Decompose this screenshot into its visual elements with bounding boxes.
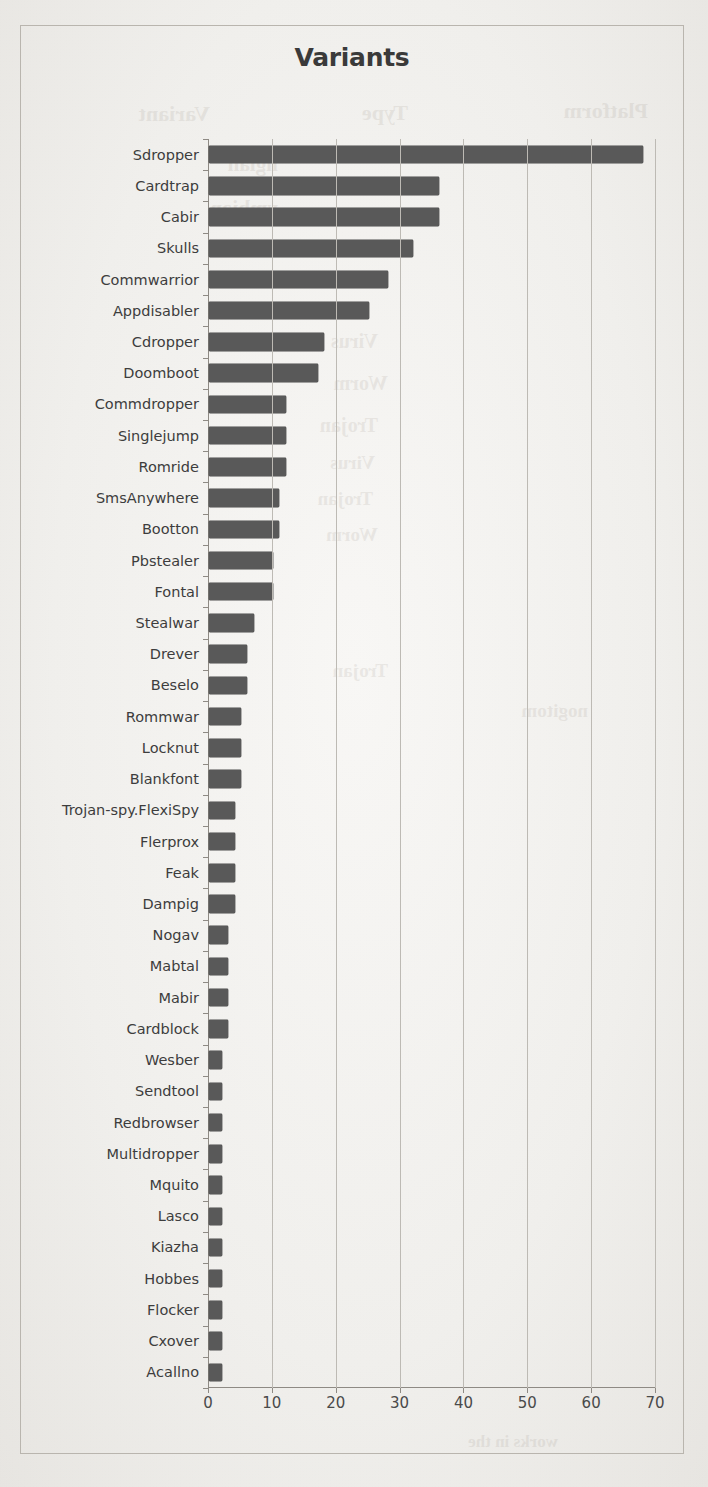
y-axis-tick [203,170,208,171]
bar [209,1301,222,1318]
bar-row: Doomboot [208,358,655,389]
category-label: Wesber [145,1053,199,1068]
bar-row: Dampig [208,888,655,919]
y-axis-tick [203,951,208,952]
bar [209,1176,222,1193]
bar-row: Cardblock [208,1013,655,1044]
bar-row: Cabir [208,201,655,232]
x-axis-tick [272,1388,273,1393]
category-label: Blankfont [130,772,199,787]
category-label: Trojan-spy.FlexiSpy [62,803,199,818]
bar-row: Sdropper [208,139,655,170]
bar [209,427,286,444]
y-axis-tick [203,920,208,921]
bar-row: Trojan-spy.FlexiSpy [208,795,655,826]
x-axis-tick-label: 50 [518,1394,537,1412]
bar-row: Mquito [208,1169,655,1200]
bar-row: Beselo [208,670,655,701]
bar-row: Mabir [208,982,655,1013]
bar [209,895,235,912]
bar-row: Blankfont [208,764,655,795]
y-axis-tick [203,1201,208,1202]
bar [209,146,643,163]
category-label: Sdropper [133,148,199,163]
bar-row: Pbstealer [208,545,655,576]
y-axis-tick [203,233,208,234]
bar-row: Cdropper [208,326,655,357]
x-axis-tick-label: 40 [454,1394,473,1412]
y-axis-tick [203,1326,208,1327]
x-axis-tick-label: 0 [203,1394,213,1412]
category-label: Hobbes [144,1272,199,1287]
x-axis-tick-labels: 010203040506070 [208,1394,655,1424]
y-axis-tick [203,1388,208,1389]
bar-row: Feak [208,857,655,888]
x-axis-tick [591,1388,592,1393]
bar [209,1083,222,1100]
category-label: Lasco [158,1209,199,1224]
category-label: Nogav [153,928,199,943]
y-axis-tick [203,482,208,483]
bar [209,614,254,631]
category-label: Doomboot [123,366,199,381]
bar [209,1208,222,1225]
y-axis-tick [203,139,208,140]
y-axis-tick [203,1045,208,1046]
x-axis-tick [655,1388,656,1393]
category-label: Flocker [147,1303,199,1318]
bar [209,1020,228,1037]
category-label: SmsAnywhere [96,491,199,506]
bar-row: Skulls [208,233,655,264]
bar-row: Nogav [208,920,655,951]
bar [209,958,228,975]
bar [209,521,279,538]
category-label: Feak [165,866,199,881]
x-axis-tick-label: 30 [390,1394,409,1412]
category-label: Stealwar [136,616,199,631]
bar [209,1364,222,1381]
bar [209,1114,222,1131]
bar-row: Rommwar [208,701,655,732]
y-axis-tick [203,607,208,608]
bar-row: Commwarrior [208,264,655,295]
y-axis-tick [203,1107,208,1108]
category-label: Acallno [146,1365,199,1380]
bar [209,1051,222,1068]
category-label: Commwarrior [100,273,199,288]
bar [209,240,413,257]
y-axis-tick [203,826,208,827]
bar [209,677,247,694]
y-axis-tick [203,1076,208,1077]
category-label: Romride [138,460,199,475]
bar-row: Wesber [208,1045,655,1076]
bar-row: Lasco [208,1201,655,1232]
category-label: Cardblock [127,1022,199,1037]
x-axis-tick [336,1388,337,1393]
x-axis-tick-label: 20 [326,1394,345,1412]
bar-row: Flerprox [208,826,655,857]
gridline [463,139,464,1388]
category-label: Pbstealer [131,554,199,569]
category-label: Kiazha [151,1240,199,1255]
bar [209,396,286,413]
y-axis-tick [203,1357,208,1358]
x-axis-tick [208,1388,209,1393]
category-label: Mquito [150,1178,200,1193]
category-label: Cxover [148,1334,199,1349]
bar [209,989,228,1006]
bar [209,583,273,600]
gridline [591,139,592,1388]
x-axis-tick-label: 60 [582,1394,601,1412]
y-axis-tick [203,201,208,202]
y-axis-tick [203,1013,208,1014]
bar-row: Drever [208,639,655,670]
category-label: Locknut [142,741,199,756]
category-label: Bootton [142,522,199,537]
y-axis-tick [203,1138,208,1139]
bar-series: SdropperCardtrapCabirSkullsCommwarriorAp… [208,139,655,1388]
y-axis-tick [203,576,208,577]
plot-area: SdropperCardtrapCabirSkullsCommwarriorAp… [208,139,655,1388]
y-axis-tick [203,514,208,515]
y-axis-tick [203,670,208,671]
y-axis-tick [203,389,208,390]
